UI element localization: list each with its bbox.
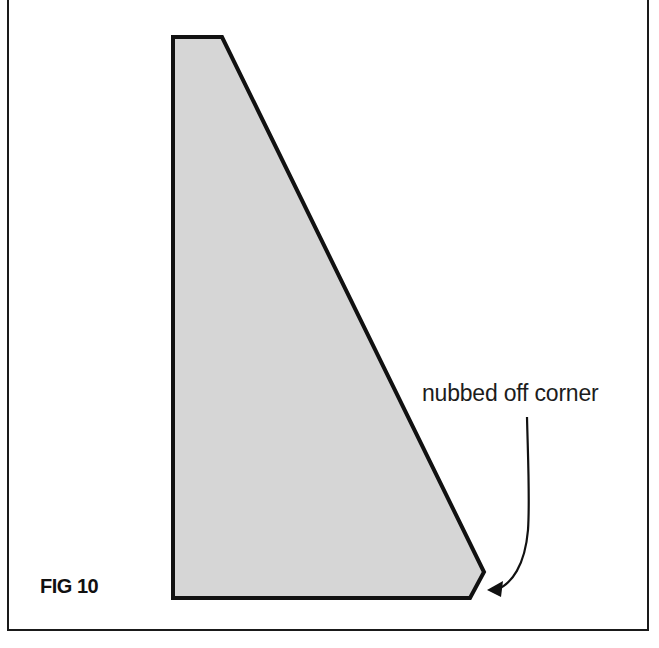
wedge-shape	[173, 37, 484, 598]
leader-line	[496, 417, 529, 590]
figure-caption: FIG 10	[40, 575, 98, 598]
arrowhead-icon	[487, 581, 503, 597]
annotation-label: nubbed off corner	[422, 380, 598, 407]
diagram-canvas	[0, 0, 659, 648]
